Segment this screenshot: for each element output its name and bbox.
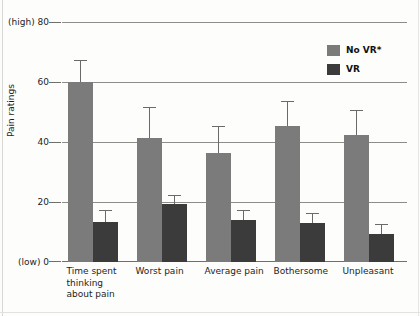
bar-no-vr xyxy=(137,138,162,263)
bar-vr xyxy=(93,222,118,263)
error-bar-cap xyxy=(143,107,156,108)
y-tick-label-20: 20 xyxy=(38,198,49,207)
error-bar-cap xyxy=(281,101,294,102)
y-tick-label-0: (low) 0 xyxy=(18,258,49,267)
bar-no-vr xyxy=(344,135,369,263)
legend-item-vr: VR xyxy=(327,62,381,77)
legend-label-no-vr: No VR* xyxy=(346,46,381,55)
tick-stub-60 xyxy=(49,82,61,83)
y-tick-label-40: 40 xyxy=(38,138,49,147)
x-axis-category-labels: Time spentthinkingabout painWorst painAv… xyxy=(62,266,407,314)
bar-chart-figure: (high) 80 60 40 20 (low) 0 Pain ratings … xyxy=(0,0,420,316)
error-bar-cap xyxy=(168,195,181,196)
error-bar-line xyxy=(149,108,150,138)
bar-no-vr xyxy=(68,82,93,262)
error-bar-line xyxy=(105,211,106,222)
error-bar-cap xyxy=(237,210,250,211)
x-axis-label: Unpleasant xyxy=(343,266,420,278)
bar-vr xyxy=(300,223,325,262)
error-bar-cap xyxy=(350,110,363,111)
x-axis-label-line: thinking xyxy=(67,278,148,290)
error-bar-line xyxy=(356,111,357,135)
bar-vr xyxy=(369,234,394,263)
bar-vr xyxy=(162,204,187,263)
bar-no-vr xyxy=(275,126,300,263)
y-tick-label-60: 60 xyxy=(38,78,49,87)
error-bar-cap xyxy=(212,126,225,127)
error-bar-cap xyxy=(375,224,388,225)
tick-stub-20 xyxy=(49,202,61,203)
error-bar-line xyxy=(287,102,288,126)
tick-stub-80 xyxy=(49,22,61,23)
tick-stub-40 xyxy=(49,142,61,143)
legend-item-no-vr: No VR* xyxy=(327,43,381,58)
error-bar-line xyxy=(80,61,81,82)
y-axis-title: Pain ratings xyxy=(7,71,16,151)
gridline-80 xyxy=(62,22,407,23)
error-bar-cap xyxy=(99,210,112,211)
error-bar-line xyxy=(381,225,382,234)
y-tick-label-80: (high) 80 xyxy=(8,18,49,27)
legend-label-vr: VR xyxy=(346,65,360,74)
error-bar-line xyxy=(312,214,313,223)
bar-vr xyxy=(231,220,256,262)
error-bar-line xyxy=(174,196,175,204)
x-axis-label-line: about pain xyxy=(67,289,148,301)
legend: No VR* VR xyxy=(327,43,381,81)
error-bar-line xyxy=(243,211,244,220)
bar-no-vr xyxy=(206,153,231,263)
gridline-60 xyxy=(62,82,407,83)
tick-stub-0 xyxy=(49,261,61,262)
legend-swatch-no-vr-icon xyxy=(327,45,340,56)
x-axis-label-line: Unpleasant xyxy=(343,266,420,278)
error-bar-cap xyxy=(306,213,319,214)
legend-swatch-vr-icon xyxy=(327,64,340,75)
error-bar-cap xyxy=(74,60,87,61)
error-bar-line xyxy=(218,127,219,153)
